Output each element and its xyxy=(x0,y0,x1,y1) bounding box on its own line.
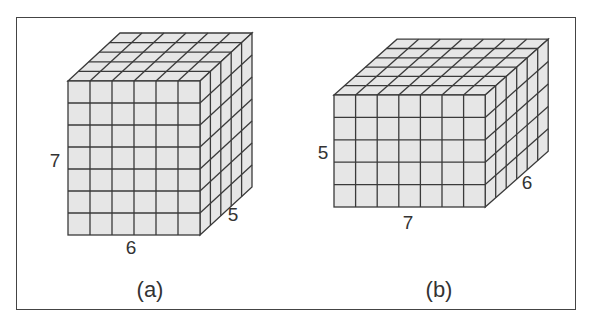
cube-b-height-label: 5 xyxy=(318,143,329,162)
cube-a-caption: (a) xyxy=(137,279,164,301)
cube-b-depth-label: 6 xyxy=(522,173,533,192)
cube-a-depth-label: 5 xyxy=(228,205,239,224)
cube-b-width-label: 7 xyxy=(403,213,414,232)
cube-diagrams xyxy=(0,0,589,329)
cube-a-height-label: 7 xyxy=(50,151,61,170)
cube-b-caption: (b) xyxy=(426,279,453,301)
cube-b-front-face xyxy=(334,95,485,207)
cube-a-width-label: 6 xyxy=(126,238,137,257)
